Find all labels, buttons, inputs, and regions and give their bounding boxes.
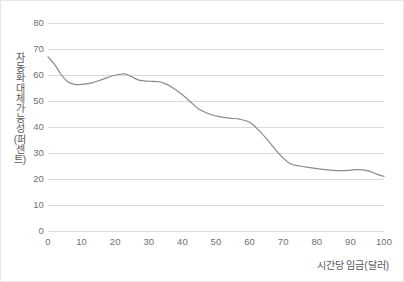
- plot-area: [48, 23, 384, 231]
- y-axis-tick-labels: 01020304050607080: [6, 23, 44, 231]
- x-axis-tick-labels: 0102030405060708090100: [48, 237, 384, 251]
- y-tick-label-20: 20: [10, 174, 44, 184]
- data-series-line: [48, 23, 384, 231]
- y-tick-label-30: 30: [10, 148, 44, 158]
- y-tick-label-80: 80: [10, 18, 44, 28]
- y-tick-label-0: 0: [10, 226, 44, 236]
- y-tick-label-60: 60: [10, 70, 44, 80]
- line-chart-figure: 자동화 대체 가능성(퍼센트) 01020304050607080 010203…: [0, 0, 404, 282]
- y-tick-label-70: 70: [10, 44, 44, 54]
- y-tick-label-40: 40: [10, 122, 44, 132]
- x-axis-title: 시간당 임금(달러): [317, 261, 389, 271]
- y-tick-label-50: 50: [10, 96, 44, 106]
- y-tick-label-10: 10: [10, 200, 44, 210]
- x-tick-label-100: 100: [364, 237, 404, 247]
- gridline-y-0: [48, 231, 384, 232]
